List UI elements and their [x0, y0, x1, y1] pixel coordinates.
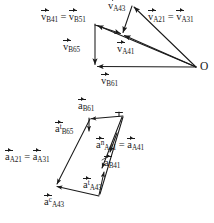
subscript-b65: B65: [62, 128, 74, 136]
equals-sign: =: [116, 139, 127, 150]
label-vb65: vB65: [63, 42, 80, 54]
label-vb61: vB61: [101, 76, 118, 88]
symbol-v: v: [101, 76, 106, 87]
label-ab41: aB41: [104, 158, 120, 170]
label-va21-va31: vA21=vA31: [148, 12, 194, 24]
symbol-a: a: [78, 101, 83, 112]
subscript-b51: B51: [74, 16, 86, 24]
symbol-v-2: v: [69, 12, 74, 23]
symbol-v: v: [108, 1, 113, 12]
label-va41: vA41: [117, 44, 134, 56]
equals-sign: =: [22, 151, 33, 162]
equals-sign: =: [58, 11, 69, 22]
label-aa41n-aa41: anA41=aA41: [96, 140, 144, 152]
symbol-a: a: [96, 140, 101, 151]
subscript-a41-2: A41: [132, 144, 144, 152]
vector-vb-to-a41-line: [95, 25, 121, 34]
subscript-a41: A41: [104, 144, 116, 152]
label-aa21-aa31: aA21=aA31: [5, 152, 49, 164]
label-pole-o: O: [200, 60, 208, 72]
vector-vb61-line: [98, 67, 197, 68]
label-va43: vA43: [108, 1, 125, 13]
label-ab61: aB61: [78, 101, 94, 113]
subscript-a43: A43: [90, 184, 102, 192]
subscript-a21: A21: [10, 156, 22, 164]
equals-sign: =: [165, 11, 176, 22]
symbol-v: v: [41, 12, 46, 23]
subscript-a21: A21: [153, 16, 165, 24]
symbol-v: v: [117, 44, 122, 55]
subscript-a31: A31: [182, 16, 194, 24]
symbol-a-2: a: [33, 152, 38, 163]
subscript-b65: B65: [68, 46, 80, 54]
symbol-a: a: [83, 180, 88, 191]
subscript-b41: B41: [46, 16, 58, 24]
symbol-a: a: [104, 158, 109, 169]
label-vb41-vb51: vB41=vB51: [41, 12, 86, 24]
subscript-b41: B41: [109, 162, 121, 170]
symbol-a: a: [5, 152, 10, 163]
vector-va41-line: [125, 36, 197, 68]
subscript-b61: B61: [106, 80, 118, 88]
symbol-a-2: a: [127, 140, 132, 151]
label-aa43c: acA43: [44, 197, 64, 209]
diagram-canvas: [0, 0, 214, 223]
subscript-a43: A43: [52, 201, 64, 209]
label-aa43t: atA43: [83, 180, 102, 192]
label-ab65t: atB65: [55, 124, 73, 136]
symbol-a: a: [44, 197, 49, 208]
subscript-b61: B61: [83, 105, 95, 113]
figure-root: vB41=vB51 vA43 vA21=vA31 vB65 vA41 vB61 …: [0, 0, 214, 223]
vector-ab61-line: [91, 116, 123, 119]
subscript-a43: A43: [113, 5, 125, 13]
symbol-v-2: v: [176, 12, 181, 23]
symbol-v: v: [148, 12, 153, 23]
subscript-a31: A31: [37, 156, 49, 164]
symbol-a: a: [55, 124, 60, 135]
subscript-a41: A41: [122, 48, 134, 56]
symbol-v: v: [63, 42, 68, 53]
